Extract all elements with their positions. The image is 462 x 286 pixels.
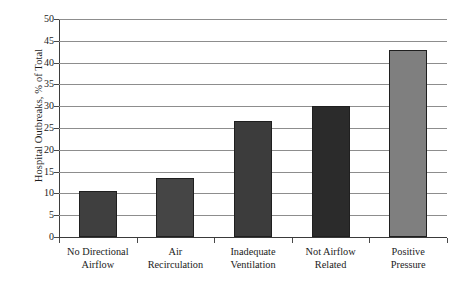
plot-area — [59, 19, 447, 237]
x-axis-tick-mark — [214, 238, 215, 243]
x-axis-category-label: PositivePressure — [369, 246, 447, 271]
y-axis-tick-mark — [54, 150, 59, 151]
y-axis-tick-label: 5 — [28, 210, 54, 220]
y-axis-tick-mark — [54, 84, 59, 85]
y-axis-tick-label: 20 — [28, 145, 54, 155]
y-axis-tick-labels: 05101520253035404550 — [26, 0, 54, 286]
x-axis-category-label: AirRecirculation — [137, 246, 215, 271]
x-axis-tick-mark — [59, 238, 60, 243]
y-axis-tick-label: 25 — [28, 123, 54, 133]
x-axis-tick-mark — [292, 238, 293, 243]
y-axis-tick-label: 50 — [28, 14, 54, 24]
bar-2 — [156, 178, 194, 237]
gridline — [59, 41, 447, 42]
y-axis-tick-label: 35 — [28, 79, 54, 89]
x-axis-label-line2: Related — [292, 259, 370, 272]
y-axis-tick-mark — [54, 19, 59, 20]
x-axis-label-line2: Ventilation — [214, 259, 292, 272]
y-axis-tick-mark — [54, 172, 59, 173]
x-axis-tick-mark — [369, 238, 370, 243]
y-axis-tick-label: 15 — [28, 167, 54, 177]
x-axis-label-line1: No Directional — [67, 246, 128, 257]
y-axis-tick-label: 40 — [28, 58, 54, 68]
gridline — [59, 237, 447, 238]
x-axis-label-line2: Pressure — [369, 259, 447, 272]
y-axis-tick-label: 30 — [28, 101, 54, 111]
y-axis-tick-label: 10 — [28, 188, 54, 198]
x-axis-label-line2: Recirculation — [137, 259, 215, 272]
bar-5 — [389, 50, 427, 237]
x-axis-label-line1: Air — [169, 246, 183, 257]
y-axis-tick-mark — [54, 41, 59, 42]
y-axis-tick-label: 45 — [28, 36, 54, 46]
y-axis-tick-mark — [54, 215, 59, 216]
x-axis-label-line1: Not Airflow — [306, 246, 356, 257]
x-axis-category-label: No DirectionalAirflow — [59, 246, 137, 271]
gridline — [59, 19, 447, 20]
bar-chart-figure: Hospital Outbreaks, % of Total 051015202… — [0, 0, 462, 286]
x-axis-label-line1: Inadequate — [230, 246, 275, 257]
bar-3 — [234, 121, 272, 237]
y-axis-tick-label: 0 — [28, 232, 54, 242]
x-axis-category-label: Not AirflowRelated — [292, 246, 370, 271]
y-axis-tick-mark — [54, 106, 59, 107]
x-axis-tick-mark — [447, 238, 448, 243]
x-axis-label-line1: Positive — [392, 246, 425, 257]
y-axis-tick-mark — [54, 128, 59, 129]
y-axis-tick-mark — [54, 63, 59, 64]
y-axis-tick-mark — [54, 193, 59, 194]
bar-4 — [312, 106, 350, 237]
x-axis-label-line2: Airflow — [59, 259, 137, 272]
x-axis-tick-mark — [137, 238, 138, 243]
bar-1 — [79, 191, 117, 237]
x-axis-category-label: InadequateVentilation — [214, 246, 292, 271]
